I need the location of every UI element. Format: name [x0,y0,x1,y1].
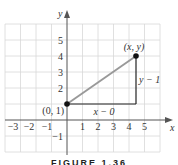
point-0-1-label: (0, 1) [42,105,64,117]
x-tick-labels: −3 −2 −1 1 2 3 4 5 [8,121,147,132]
horizontal-leg-label: x − 0 [92,106,114,117]
figure-caption: FIGURE 1.36 [0,158,178,165]
svg-text:4: 4 [127,121,132,132]
coordinate-diagram: x y −3 −2 −1 1 2 3 4 5 −1 2 3 4 5 (0, 1)… [0,0,178,165]
hypotenuse [67,56,136,104]
svg-text:2: 2 [58,83,63,94]
svg-text:−1: −1 [42,121,53,132]
svg-text:2: 2 [96,121,101,132]
y-axis-label: y [57,8,63,19]
point-0-1 [64,101,70,107]
x-axis-label: x [169,122,175,133]
vertical-leg-label: y − 1 [138,74,160,85]
svg-text:3: 3 [58,67,63,78]
point-x-y [133,53,139,59]
svg-text:1: 1 [80,121,85,132]
y-arrow-icon [64,10,70,18]
svg-text:5: 5 [58,35,63,46]
svg-text:−1: −1 [52,131,63,142]
point-x-y-label: (x, y) [124,41,145,53]
svg-text:3: 3 [111,121,116,132]
svg-text:−3: −3 [8,121,19,132]
svg-text:5: 5 [142,121,147,132]
y-tick-labels: −1 2 3 4 5 [52,35,63,142]
svg-text:4: 4 [58,51,63,62]
y-axis [64,10,70,155]
svg-text:−2: −2 [24,121,35,132]
